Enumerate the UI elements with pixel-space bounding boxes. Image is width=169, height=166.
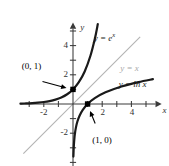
x-axis-label: x	[163, 106, 167, 115]
curve-label-identity: y = x	[120, 64, 139, 73]
curve-label-logarithm: y = ln x	[119, 80, 147, 89]
axes	[20, 23, 161, 166]
curve-label-exponential: y = ex	[94, 34, 115, 43]
exponential-logarithm-graph-figure: x y -2 2 4 -2 2 4 y = ex y = x y = ln x …	[0, 0, 169, 166]
series-logarithm-curve	[73, 79, 153, 156]
annotation-label-point-1-0: (1, 0)	[92, 136, 112, 145]
annotation-label-point-0-1: (0, 1)	[22, 62, 42, 71]
y-tick-label-minus2: -2	[61, 128, 69, 137]
series-identity-line	[23, 37, 140, 154]
x-tick-label-2: 2	[100, 108, 105, 117]
curve-label-exponential-exponent: x	[112, 31, 115, 38]
x-tick-label-minus2: -2	[40, 108, 48, 117]
x-tick-label-4: 4	[130, 108, 135, 117]
y-tick-label-4: 4	[64, 41, 69, 50]
y-tick-label-2: 2	[64, 70, 69, 79]
y-axis-label: y	[80, 23, 84, 32]
curve-label-exponential-text: y = e	[94, 33, 113, 43]
